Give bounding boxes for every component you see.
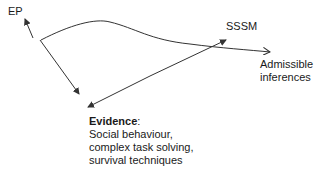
admissible-line-2: inferences — [260, 71, 313, 84]
ep-arrow — [25, 19, 33, 38]
evidence-title-row: Evidence: — [89, 115, 194, 128]
evidence-line-1: Social behaviour, — [89, 128, 194, 141]
sssm-label: SSSM — [226, 20, 257, 33]
ep-label: EP — [8, 5, 23, 18]
evidence-title: Evidence — [89, 115, 137, 127]
ep-evidence-arrow — [40, 40, 79, 94]
evidence-colon: : — [137, 115, 140, 127]
evidence-line-3: survival techniques — [89, 154, 194, 167]
admissible-inferences-label: Admissible inferences — [260, 58, 313, 84]
evidence-block: Evidence: Social behaviour, complex task… — [89, 115, 194, 167]
evidence-line-2: complex task solving, — [89, 141, 194, 154]
admissible-line-1: Admissible — [260, 58, 313, 71]
evidence-sssm-arrow — [88, 76, 150, 107]
sssm-evidence-arrow — [150, 40, 226, 76]
